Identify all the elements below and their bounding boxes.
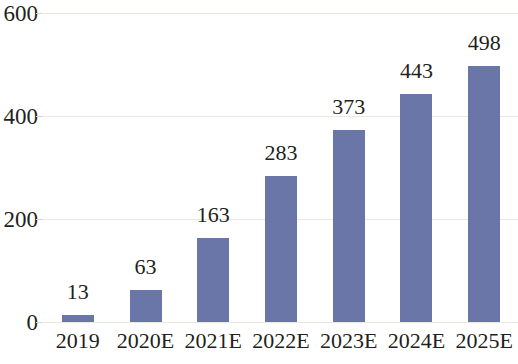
bar-slot: 283 [247,13,315,322]
x-axis-tick-label: 2022E [252,330,309,352]
bar-value-label: 373 [332,96,365,118]
bar[interactable] [400,94,432,322]
plot-area: 1363163283373443498 [44,13,518,322]
bar[interactable] [265,176,297,322]
y-axis-tick-mark [36,219,43,220]
x-axis-tick-label: 2021E [185,330,242,352]
y-axis-tick-label: 600 [0,2,38,25]
bar-value-label: 283 [264,142,297,164]
bar-slot: 13 [44,13,112,322]
bar-value-label: 63 [135,256,157,278]
bar[interactable] [130,290,162,322]
y-axis-tick-label: 200 [0,208,38,231]
bar-value-label: 163 [197,204,230,226]
bar[interactable] [333,130,365,322]
bar-slot: 498 [450,13,518,322]
x-axis-tick-label: 2024E [388,330,445,352]
bar[interactable] [62,315,94,322]
x-axis-tick-label: 2025E [455,330,512,352]
bar-slot: 443 [383,13,451,322]
bar-value-label: 443 [400,60,433,82]
y-axis-tick-label: 400 [0,105,38,128]
bar-slot: 373 [315,13,383,322]
bar[interactable] [197,238,229,322]
x-axis-tick-label: 2020E [117,330,174,352]
x-axis-tick-label: 2019 [56,330,100,352]
y-axis-tick-mark [36,116,43,117]
bar[interactable] [468,66,500,322]
x-axis-tick-label: 2023E [320,330,377,352]
y-axis-tick-label: 0 [0,311,38,334]
bar-chart: 0 200 400 600 1363163283373443498 201920… [0,0,518,364]
gridline [44,322,518,323]
y-axis-tick-mark [36,322,43,323]
bar-slot: 163 [179,13,247,322]
y-axis-tick-mark [36,13,43,14]
bar-value-label: 13 [67,281,89,303]
bar-value-label: 498 [468,32,501,54]
bar-slot: 63 [112,13,180,322]
